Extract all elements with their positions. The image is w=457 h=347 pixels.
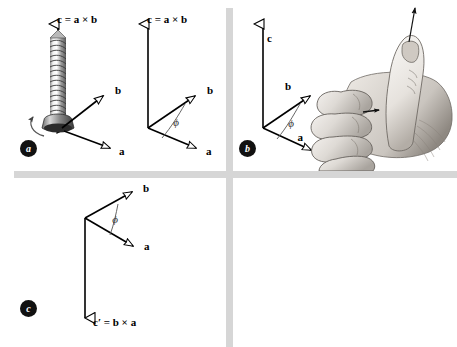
- vector-a-label-triad-b: a: [298, 131, 304, 143]
- vector-b-triad-b: [263, 96, 310, 128]
- vector-b-label-screw: b: [115, 84, 121, 96]
- panel-b: c b a ϕ: [233, 0, 457, 171]
- panel-c: b a c′ = b × a ϕ c: [0, 178, 226, 347]
- vector-b-screw: [62, 96, 103, 128]
- screw-illustration: [42, 30, 74, 133]
- vector-a-label-triad-c: a: [144, 240, 150, 252]
- vector-a-label-screw: a: [119, 145, 125, 157]
- vector-c-label-triad-a: c = a × b: [147, 13, 187, 25]
- panel-badge-a: a: [20, 140, 37, 157]
- hand-illustration: [311, 8, 452, 171]
- vector-b-triad-a: [148, 96, 195, 128]
- angle-phi-label-c: ϕ: [112, 213, 118, 225]
- vector-c-label-screw: c = a × b: [57, 13, 97, 25]
- vector-c-prime-label-triad-c: c′ = b × a: [93, 316, 137, 328]
- angle-phi-label-a: ϕ: [173, 116, 179, 128]
- cross-product-figure: c = a × b b a c = a × b b a ϕ a: [0, 0, 457, 347]
- vector-a-triad-a: [148, 128, 196, 148]
- panel-a: c = a × b b a c = a × b b a ϕ a: [0, 0, 226, 171]
- panel-badge-b: b: [239, 140, 256, 157]
- vector-b-label-triad-c: b: [143, 182, 149, 194]
- angle-phi-label-b: ϕ: [288, 117, 294, 129]
- vector-a-screw: [64, 131, 110, 148]
- vector-b-label-triad-a: b: [207, 84, 213, 96]
- vector-b-triad-c: [85, 192, 132, 218]
- panel-badge-c: c: [20, 300, 37, 317]
- vector-c-label-triad-b: c: [267, 32, 272, 44]
- vector-a-label-triad-a: a: [206, 145, 212, 157]
- vector-b-label-triad-b: b: [285, 80, 291, 92]
- horizontal-divider: [14, 171, 457, 178]
- vector-a-triad-b: [263, 128, 311, 150]
- vector-a-triad-c: [85, 218, 133, 246]
